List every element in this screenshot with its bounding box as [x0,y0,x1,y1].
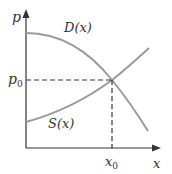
equilibrium-price-symbol: p [8,71,17,87]
equilibrium-price-subscript: 0 [17,79,23,89]
supply-curve-label: S(x) [48,116,74,131]
supply-demand-diagram: p x D(x) S(x) p0 x0 [0,0,172,174]
equilibrium-quantity-subscript: 0 [112,161,118,171]
supply-curve [26,48,149,122]
equilibrium-quantity-label: x0 [105,154,118,171]
x-axis-label: x [153,156,161,171]
y-axis-label: p [12,9,21,25]
y-axis-arrow-icon [23,9,30,18]
demand-curve-label: D(x) [63,20,92,35]
equilibrium-price-label: p0 [8,71,23,89]
x-axis-arrow-icon [152,145,161,152]
